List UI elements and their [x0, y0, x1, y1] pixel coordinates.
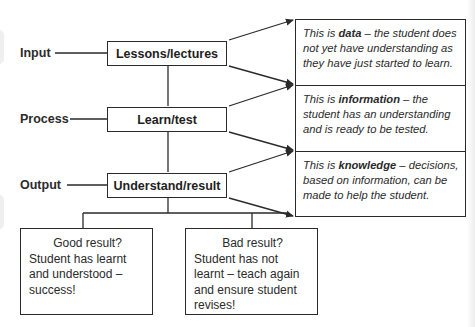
result-bad-box: Bad result? Student has not learnt – tea…: [185, 228, 318, 315]
row-label-output: Output: [20, 178, 61, 192]
stage-learn-label: Learn/test: [137, 113, 197, 127]
description-data: This is data – the student does not yet …: [296, 20, 465, 85]
description-column: This is data – the student does not yet …: [295, 19, 466, 217]
stage-lessons-label: Lessons/lectures: [116, 47, 218, 61]
stage-understand-label: Understand/result: [114, 179, 221, 193]
arrow-understand-top: [229, 151, 293, 172]
result-good-body: Student has learnt and understood – succ…: [29, 252, 126, 297]
description-data-prefix: This is: [303, 27, 338, 39]
description-knowledge: This is knowledge – decisions, based on …: [296, 151, 465, 216]
description-knowledge-prefix: This is: [303, 159, 338, 171]
arrow-learn-top: [229, 85, 293, 106]
stage-understand-result: Understand/result: [107, 173, 227, 198]
description-information-term: information: [338, 93, 400, 105]
description-information: This is information – the student has an…: [296, 85, 465, 151]
stage-learn-test: Learn/test: [107, 107, 227, 132]
arrow-lessons-top: [229, 20, 293, 40]
result-good-box: Good result? Student has learnt and unde…: [20, 228, 153, 315]
row-label-process: Process: [20, 112, 69, 126]
description-data-term: data: [338, 27, 361, 39]
row-label-input: Input: [20, 46, 51, 60]
stage-lessons-lectures: Lessons/lectures: [107, 41, 227, 66]
arrow-learn-bottom: [229, 132, 293, 150]
description-knowledge-term: knowledge: [338, 159, 396, 171]
description-information-prefix: This is: [303, 93, 338, 105]
arrow-lessons-bottom: [229, 66, 293, 84]
result-bad-body: Student has not learnt – teach again and…: [194, 252, 299, 313]
result-bad-heading: Bad result?: [194, 236, 311, 252]
result-good-heading: Good result?: [29, 236, 146, 252]
